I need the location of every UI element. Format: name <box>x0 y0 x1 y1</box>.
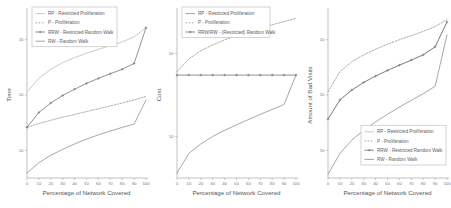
x-tick-label: 100 <box>142 181 150 186</box>
series-marker <box>188 74 191 77</box>
series-marker <box>176 74 179 77</box>
x-tick-label: 20 <box>199 181 204 186</box>
y-axis-label: Cost <box>155 88 162 101</box>
bad-visits-panel: 0102030405060708090100101010Percentage o… <box>301 0 451 208</box>
x-tick-label: 30 <box>60 181 65 186</box>
x-tick-label: 40 <box>223 181 228 186</box>
legend-item-label: RW - Random Walk <box>48 39 89 44</box>
series-line <box>27 96 146 127</box>
time-panel: 0102030405060708090100101010Percentage o… <box>0 0 150 208</box>
x-tick-label: 70 <box>108 181 113 186</box>
x-tick-label: 50 <box>385 181 390 186</box>
series-marker <box>398 64 401 67</box>
legend-item-label: RP - Restricted Proliferation <box>377 129 434 134</box>
x-tick-label: 10 <box>337 181 342 186</box>
x-tick-label: 20 <box>48 181 53 186</box>
series-marker <box>133 62 136 65</box>
series-marker <box>97 77 100 80</box>
legend-item-label: P - Proliferation <box>198 21 230 26</box>
series-marker <box>283 74 286 77</box>
series-marker <box>121 68 124 71</box>
y-tick-label: 10 <box>169 134 174 139</box>
x-axis-label: Percentage of Network Covered <box>343 189 432 196</box>
series-line <box>328 19 447 91</box>
legend-item-label: RRW - Restricted Random Walk <box>377 148 443 153</box>
x-tick-label: 40 <box>72 181 77 186</box>
series-marker <box>374 75 377 78</box>
x-axis-label: Percentage of Network Covered <box>193 189 282 196</box>
legend-item-label: RP - Restricted Proliferation <box>198 11 255 16</box>
series-marker <box>200 74 203 77</box>
series-marker <box>271 74 274 77</box>
legend-item-label: RW - Random Walk <box>377 157 418 162</box>
cost-panel: 01020304050607080901001010Percentage of … <box>150 0 300 208</box>
y-tick-label: 10 <box>319 37 324 42</box>
legend-item-label: P - Proliferation <box>377 139 409 144</box>
x-tick-label: 60 <box>397 181 402 186</box>
series-marker <box>73 88 76 91</box>
x-tick-label: 30 <box>211 181 216 186</box>
y-tick-label: 10 <box>319 92 324 97</box>
series-marker <box>295 74 298 77</box>
series-marker <box>259 74 262 77</box>
x-tick-label: 100 <box>293 181 301 186</box>
x-tick-label: 80 <box>270 181 275 186</box>
x-tick-label: 0 <box>326 181 329 186</box>
y-tick-label: 10 <box>19 92 24 97</box>
legend-item-label: RP - Restricted Proliferation <box>48 11 105 16</box>
x-tick-label: 70 <box>409 181 414 186</box>
x-tick-label: 60 <box>246 181 251 186</box>
x-tick-label: 70 <box>258 181 263 186</box>
legend-item-label: RRW - Restricted Random Walk <box>48 30 114 35</box>
legend-item-label: RRW/RW - (Restricted) Random Walk <box>198 30 276 35</box>
series-marker <box>85 82 88 85</box>
x-tick-label: 80 <box>420 181 425 186</box>
x-tick-label: 90 <box>132 181 137 186</box>
series-marker <box>224 74 227 77</box>
series-marker <box>247 74 250 77</box>
x-tick-label: 90 <box>282 181 287 186</box>
x-axis-label: Percentage of Network Covered <box>42 189 131 196</box>
y-tick-label: 10 <box>19 148 24 153</box>
x-tick-label: 0 <box>26 181 29 186</box>
x-tick-label: 80 <box>120 181 125 186</box>
x-tick-label: 50 <box>234 181 239 186</box>
x-tick-label: 50 <box>84 181 89 186</box>
legend-item-label: P - Proliferation <box>48 21 80 26</box>
series-marker <box>212 74 215 77</box>
series-marker <box>236 74 239 77</box>
y-tick-label: 10 <box>169 51 174 56</box>
y-tick-label: 10 <box>19 37 24 42</box>
x-tick-label: 60 <box>96 181 101 186</box>
series-marker <box>386 69 389 72</box>
x-tick-label: 90 <box>432 181 437 186</box>
y-axis-label: Time <box>5 88 12 102</box>
series-marker <box>109 72 112 75</box>
x-tick-label: 10 <box>187 181 192 186</box>
x-tick-label: 100 <box>443 181 451 186</box>
series-marker <box>445 21 448 24</box>
y-tick-label: 10 <box>319 148 324 153</box>
series-marker <box>410 59 413 62</box>
x-tick-label: 0 <box>176 181 179 186</box>
x-tick-label: 10 <box>37 181 42 186</box>
x-tick-label: 20 <box>349 181 354 186</box>
x-tick-label: 30 <box>361 181 366 186</box>
three-panel-figure: 0102030405060708090100101010Percentage o… <box>0 0 451 208</box>
x-tick-label: 40 <box>373 181 378 186</box>
series-line <box>177 75 296 173</box>
series-line <box>27 100 146 173</box>
y-axis-label: Amount of Bad Visits <box>306 66 313 123</box>
